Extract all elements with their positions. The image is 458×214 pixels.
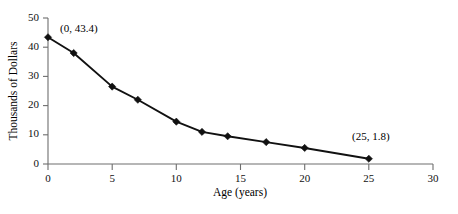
y-tick-label-30: 30 (28, 69, 40, 81)
y-tick-label-50: 50 (28, 11, 40, 23)
x-tick-label-5: 5 (109, 172, 115, 184)
y-tick-label-40: 40 (28, 40, 40, 52)
y-tick-label-10: 10 (28, 127, 40, 139)
x-tick-label-30: 30 (428, 172, 440, 184)
axes-group (48, 18, 433, 164)
chart-canvas: 50 40 30 20 10 0 0 5 10 15 20 25 30 Age … (0, 0, 458, 214)
x-tick-label-10: 10 (171, 172, 183, 184)
x-tick-label-15: 15 (235, 172, 247, 184)
x-tick-label-25: 25 (363, 172, 375, 184)
x-tick-label-20: 20 (299, 172, 311, 184)
annotation-last-point: (25, 1.8) (352, 130, 390, 143)
annotation-first-point: (0, 43.4) (60, 22, 98, 35)
data-point (224, 133, 231, 140)
y-axis-title: Thousands of Dollars (7, 41, 19, 141)
y-tick-label-20: 20 (28, 98, 40, 110)
x-tick-label-0: 0 (45, 172, 51, 184)
data-point (301, 144, 308, 151)
data-point (198, 128, 205, 135)
y-tick-label-0: 0 (34, 157, 40, 169)
y-axis-ticks: 50 40 30 20 10 0 (28, 11, 48, 169)
x-axis-ticks: 0 5 10 15 20 25 30 (45, 164, 439, 184)
data-series-line (48, 37, 369, 158)
data-point (365, 155, 372, 162)
data-point (263, 139, 270, 146)
data-point-markers (44, 34, 372, 163)
line-chart-figure: 50 40 30 20 10 0 0 5 10 15 20 25 30 Age … (0, 0, 458, 214)
x-axis-title: Age (years) (213, 186, 267, 199)
